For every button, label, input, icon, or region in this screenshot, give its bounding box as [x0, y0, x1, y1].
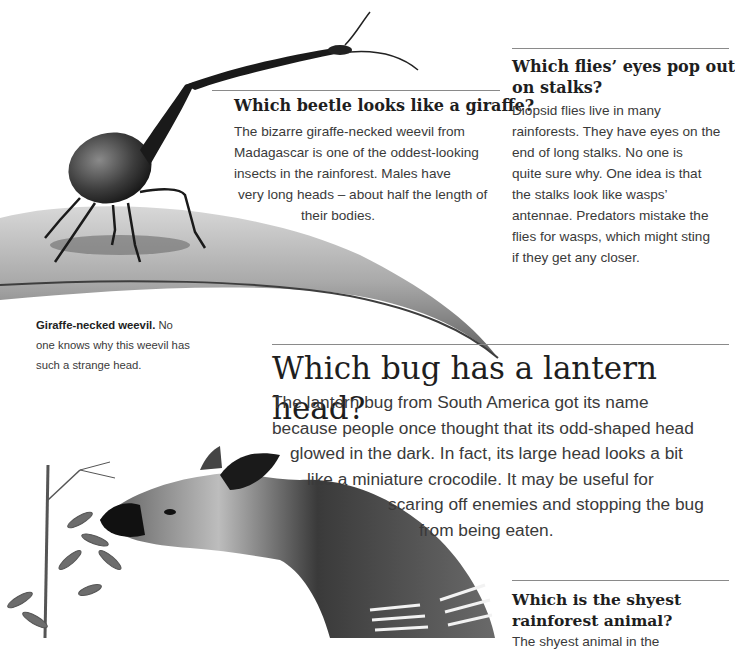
lantern-section-rule [272, 344, 729, 345]
lantern-paragraph: The lantern bug from South America got i… [272, 390, 704, 543]
flies-heading: Which flies’ eyes pop out on stalks? [512, 56, 735, 98]
caption-text: No [155, 319, 173, 331]
flies-line: end of long stalks. No one is [512, 142, 720, 163]
beetle-line: Madagascar is one of the oddest-looking [234, 142, 487, 163]
flies-line: rainforests. They have eyes on the [512, 121, 720, 142]
flies-line: quite sure why. One idea is that [512, 163, 720, 184]
shyest-heading: Which is the shyest rainforest animal? [512, 589, 681, 631]
caption-line: such a strange head. [36, 355, 190, 375]
caption-first-line: Giraffe-necked weevil. No [36, 315, 190, 335]
beetle-line: very long heads – about half the length … [234, 184, 487, 205]
plant-illustration [6, 462, 123, 638]
beetle-heading: Which beetle looks like a giraffe? [234, 96, 534, 116]
weevil-caption: Giraffe-necked weevil. No one knows why … [36, 315, 190, 375]
lantern-line: like a miniature crocodile. It may be us… [272, 467, 704, 493]
lantern-line: The lantern bug from South America got i… [272, 390, 704, 416]
beetle-line: The bizarre giraffe-necked weevil from [234, 121, 487, 142]
caption-bold-label: Giraffe-necked weevil. [36, 319, 155, 331]
caption-line: one knows why this weevil has [36, 335, 190, 355]
flies-line: Diopsid flies live in many [512, 100, 720, 121]
shyest-heading-line: Which is the shyest [512, 589, 681, 610]
shyest-section-rule [512, 580, 729, 581]
beetle-section-rule [212, 90, 500, 91]
shyest-heading-line: rainforest animal? [512, 610, 681, 631]
lantern-line: from being eaten. [272, 518, 704, 544]
lantern-line: glowed in the dark. In fact, its large h… [272, 441, 704, 467]
beetle-line: insects in the rainforest. Males have [234, 163, 487, 184]
flies-heading-line: Which flies’ eyes pop out [512, 56, 735, 77]
flies-line: the stalks look like wasps’ [512, 184, 720, 205]
shyest-paragraph: The shyest animal in the [512, 631, 659, 652]
lantern-line: scaring off enemies and stopping the bug [272, 492, 704, 518]
shyest-line: The shyest animal in the [512, 631, 659, 652]
beetle-line: their bodies. [234, 205, 487, 226]
flies-line: if they get any closer. [512, 247, 720, 268]
flies-line: flies for wasps, which might sting [512, 226, 720, 247]
lantern-line: because people once thought that its odd… [272, 416, 704, 442]
flies-paragraph: Diopsid flies live in many rainforests. … [512, 100, 720, 268]
flies-heading-line: on stalks? [512, 77, 735, 98]
flies-line: antennae. Predators mistake the [512, 205, 720, 226]
beetle-paragraph: The bizarre giraffe-necked weevil from M… [234, 121, 487, 226]
flies-section-rule [512, 48, 729, 49]
